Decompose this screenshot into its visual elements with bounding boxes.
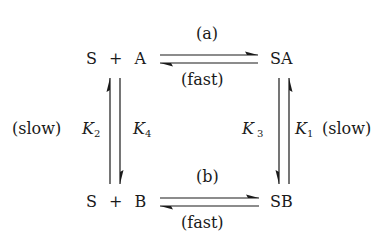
bottom-reverse-arrow [160, 206, 259, 210]
right-rate-label: (slow) [322, 121, 371, 137]
species-s-plus-a: S + A [86, 51, 146, 67]
k2-label: K2 [82, 121, 100, 139]
left-rate-label: (slow) [12, 121, 61, 137]
bottom-forward-arrow [160, 195, 259, 199]
top-reverse-arrow [160, 63, 258, 67]
k4-label: K4 [133, 121, 151, 139]
left-down-arrow [120, 78, 124, 184]
reaction-scheme-diagram: S + A SA S + B SB (a) (fast) (b) (fast) … [0, 0, 389, 244]
left-up-arrow [107, 78, 111, 184]
right-down-arrow [276, 78, 280, 184]
species-sa: SA [270, 51, 293, 67]
species-s-plus-b: S + B [86, 194, 146, 210]
right-up-arrow [289, 78, 293, 184]
reaction-b-label: (b) [196, 169, 219, 185]
k3-label: K3 [242, 121, 263, 139]
reaction-b-rate-label: (fast) [181, 215, 224, 231]
top-forward-arrow [160, 52, 258, 56]
k1-label: K1 [295, 121, 313, 139]
species-sb: SB [270, 194, 293, 210]
reaction-a-rate-label: (fast) [181, 72, 224, 88]
reaction-a-label: (a) [196, 26, 218, 42]
